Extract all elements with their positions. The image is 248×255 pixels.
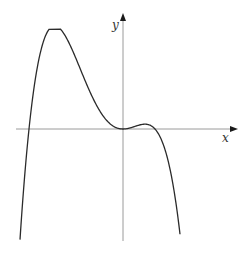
- x-axis-arrow-icon: [230, 126, 238, 132]
- x-axis-label: x: [222, 131, 229, 145]
- y-axis-label: y: [111, 18, 119, 32]
- chart-canvas: y x: [0, 0, 248, 255]
- y-axis-arrow-icon: [120, 13, 126, 21]
- curve: [20, 29, 180, 239]
